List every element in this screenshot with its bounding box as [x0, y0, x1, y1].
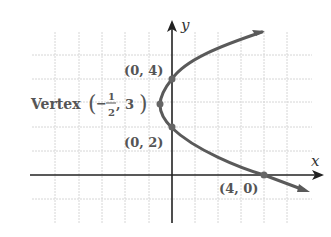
curve-arrow-bottom-icon: [297, 184, 310, 192]
svg-text:Vertex: Vertex: [30, 96, 81, 112]
point-4-0: [261, 172, 268, 179]
parabola-curve: [160, 32, 304, 190]
point-0-2: [169, 124, 176, 131]
x-axis-label: x: [311, 152, 320, 170]
svg-text:1: 1: [108, 91, 115, 102]
svg-text:2: 2: [108, 107, 115, 118]
label-0-4: (0, 4): [124, 63, 163, 78]
vertex-label: Vertex ( − 1 2 , 3 ): [30, 91, 148, 118]
point-0-4: [169, 76, 176, 83]
label-0-2: (0, 2): [124, 135, 163, 150]
label-4-0: (4, 0): [219, 181, 258, 196]
y-axis-label: y: [180, 16, 190, 34]
svg-text:−: −: [96, 96, 107, 111]
parabola-chart: x y (0, 4) (0, 2) (4, 0) Vertex ( − 1 2 …: [0, 0, 331, 237]
svg-text:): ): [139, 91, 148, 116]
point-vertex: [157, 101, 164, 108]
svg-text:, 3: , 3: [116, 97, 134, 112]
